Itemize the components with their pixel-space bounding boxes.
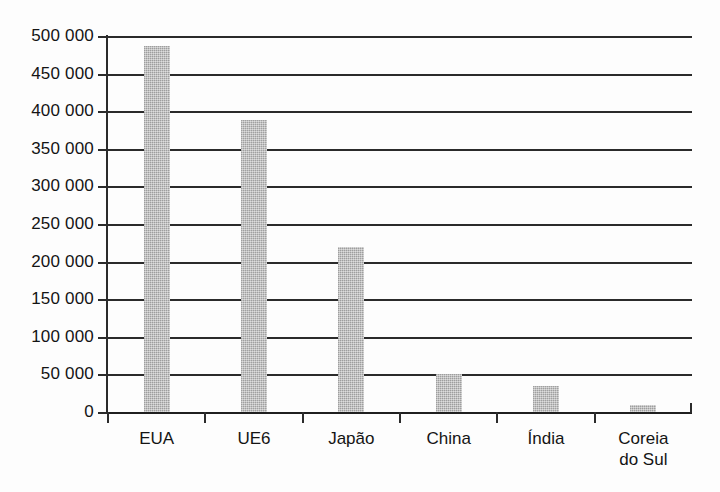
x-axis-tick-label-line: do Sul bbox=[583, 449, 703, 470]
y-axis-tick-label: 250 000 bbox=[2, 215, 94, 232]
y-axis-tick bbox=[98, 262, 108, 264]
x-axis-tick-label-line: Coreia bbox=[618, 429, 668, 448]
x-axis-tick bbox=[204, 412, 206, 423]
bar bbox=[144, 46, 170, 412]
y-axis-tick-label: 0 bbox=[2, 403, 94, 420]
x-axis-end-cap bbox=[690, 403, 692, 413]
x-axis-tick-label-line: Japão bbox=[328, 429, 374, 448]
bars-layer bbox=[108, 36, 692, 412]
y-axis-tick bbox=[98, 299, 108, 301]
y-axis-tick bbox=[98, 36, 108, 38]
y-axis-tick-label: 500 000 bbox=[2, 27, 94, 44]
y-axis-tick bbox=[98, 111, 108, 113]
bar bbox=[436, 374, 462, 412]
bar bbox=[630, 405, 656, 412]
x-axis-tick bbox=[594, 412, 596, 423]
y-axis-tick bbox=[98, 186, 108, 188]
y-axis-tick bbox=[98, 412, 108, 414]
x-axis-tick-label-line: China bbox=[426, 429, 470, 448]
y-axis-tick bbox=[98, 224, 108, 226]
x-axis-tick-label-line: Índia bbox=[528, 429, 565, 448]
y-axis-tick-label: 300 000 bbox=[2, 177, 94, 194]
y-axis-tick-label: 400 000 bbox=[2, 102, 94, 119]
bar-chart: 050 000100 000150 000200 000250 000300 0… bbox=[0, 0, 720, 492]
y-axis-tick-label: 150 000 bbox=[2, 290, 94, 307]
y-axis-tick-label: 450 000 bbox=[2, 65, 94, 82]
y-axis-tick bbox=[98, 74, 108, 76]
y-axis-tick bbox=[98, 337, 108, 339]
x-axis-tick bbox=[302, 412, 304, 423]
bar bbox=[241, 120, 267, 412]
y-axis-tick-label: 350 000 bbox=[2, 140, 94, 157]
bar bbox=[338, 247, 364, 412]
y-axis-tick-label: 100 000 bbox=[2, 328, 94, 345]
y-axis-tick-label: 200 000 bbox=[2, 253, 94, 270]
x-axis-tick bbox=[399, 412, 401, 423]
y-axis-tick-label: 50 000 bbox=[2, 365, 94, 382]
y-axis-tick bbox=[98, 149, 108, 151]
y-axis-tick-labels: 050 000100 000150 000200 000250 000300 0… bbox=[0, 0, 94, 492]
x-axis-tick-label-line: UE6 bbox=[237, 429, 270, 448]
x-axis-tick-label-line: EUA bbox=[139, 429, 174, 448]
bar bbox=[533, 386, 559, 412]
x-axis-tick bbox=[496, 412, 498, 423]
x-axis-tick-label: Coreiado Sul bbox=[583, 428, 703, 470]
y-axis-tick bbox=[98, 374, 108, 376]
